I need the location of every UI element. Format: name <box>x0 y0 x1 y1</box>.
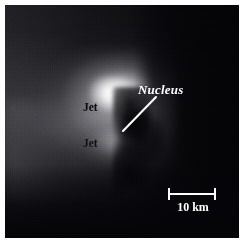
comet-nucleus-figure: Nucleus Jet Jet 10 km <box>0 0 245 246</box>
bottom-dark-sky <box>5 164 239 238</box>
astronomical-image-plate: Nucleus Jet Jet 10 km <box>5 5 239 238</box>
